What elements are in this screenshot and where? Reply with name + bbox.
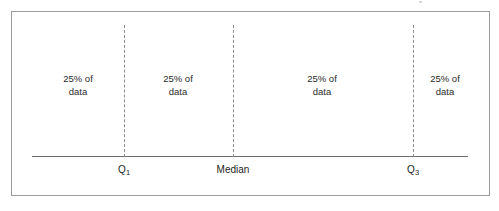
first-quartile-divider <box>124 25 125 157</box>
region-label-below-q1: 25% of data <box>63 72 93 98</box>
scan-artifact-speck <box>419 1 422 3</box>
region-label-line2: data <box>430 85 460 98</box>
axis-tick-label-q3: Q3 <box>407 163 419 177</box>
number-line-axis <box>32 156 468 157</box>
region-label-line1: 25% of <box>163 72 193 85</box>
tick-label-subscript: 3 <box>415 168 419 177</box>
axis-tick-label-q1: Q1 <box>118 163 130 177</box>
region-label-q1-to-median: 25% of data <box>163 72 193 98</box>
region-label-line2: data <box>307 85 337 98</box>
median-divider <box>233 25 234 157</box>
tick-label-subscript: 1 <box>126 168 130 177</box>
region-label-line2: data <box>163 85 193 98</box>
region-label-line1: 25% of <box>63 72 93 85</box>
tick-label-text: Q <box>407 164 415 175</box>
tick-label-text: Median <box>217 164 250 175</box>
quartile-diagram-figure: 25% of data 25% of data 25% of data 25% … <box>0 0 499 211</box>
region-label-median-to-q3: 25% of data <box>307 72 337 98</box>
region-label-line2: data <box>63 85 93 98</box>
tick-label-text: Q <box>118 164 126 175</box>
region-label-above-q3: 25% of data <box>430 72 460 98</box>
region-label-line1: 25% of <box>430 72 460 85</box>
third-quartile-divider <box>413 25 414 157</box>
region-label-line1: 25% of <box>307 72 337 85</box>
axis-tick-label-median: Median <box>217 163 250 177</box>
